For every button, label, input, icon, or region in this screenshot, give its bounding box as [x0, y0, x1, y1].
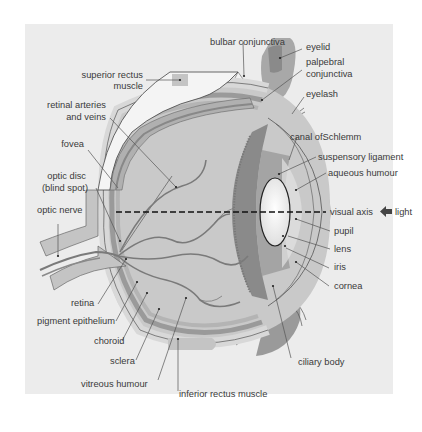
label-cornea: cornea [334, 281, 363, 291]
label-canal-of-schlemm: canal ofSchlemm [290, 132, 362, 142]
label-aqueous-humour: aqueous humour [328, 168, 398, 178]
label-superior-rectus-2: muscle [114, 81, 143, 91]
label-suspensory-ligament: suspensory ligament [318, 152, 404, 162]
label-visual-axis: visual axis [330, 207, 373, 217]
label-bulbar-conjunctiva: bulbar conjunctiva [210, 37, 286, 47]
label-choroid: choroid [94, 336, 125, 346]
label-fovea: fovea [61, 139, 85, 149]
label-ciliary-body: ciliary body [298, 357, 345, 367]
label-light: light [395, 207, 412, 217]
label-vitreous-humour: vitreous humour [81, 379, 148, 389]
label-sclera: sclera [110, 356, 136, 366]
label-optic-disc-2: (blind spot) [42, 183, 88, 193]
label-optic-nerve: optic nerve [37, 205, 82, 215]
label-optic-disc-1: optic disc [47, 171, 86, 181]
label-eyelash: eyelash [306, 89, 338, 99]
label-inferior-rectus: inferior rectus muscle [179, 389, 267, 399]
label-retinal-vessels-2: and veins [66, 112, 106, 122]
label-lens: lens [334, 244, 351, 254]
eye-diagram: bulbar conjunctiva eyelid palpebral conj… [0, 0, 422, 432]
label-iris: iris [334, 262, 346, 272]
label-retinal-vessels-1: retinal arteries [47, 100, 106, 110]
label-superior-rectus-1: superior rectus [82, 70, 144, 80]
label-palpebral-conjunctiva-1: palpebral [306, 57, 344, 67]
label-palpebral-conjunctiva-2: conjunctiva [306, 69, 353, 79]
label-retina: retina [71, 298, 95, 308]
label-eyelid: eyelid [306, 42, 330, 52]
inferior-rectus-muscle [168, 338, 216, 350]
left-arrow-icon [380, 206, 392, 217]
label-pigment-epithelium: pigment epithelium [37, 316, 115, 326]
label-pupil: pupil [334, 226, 354, 236]
